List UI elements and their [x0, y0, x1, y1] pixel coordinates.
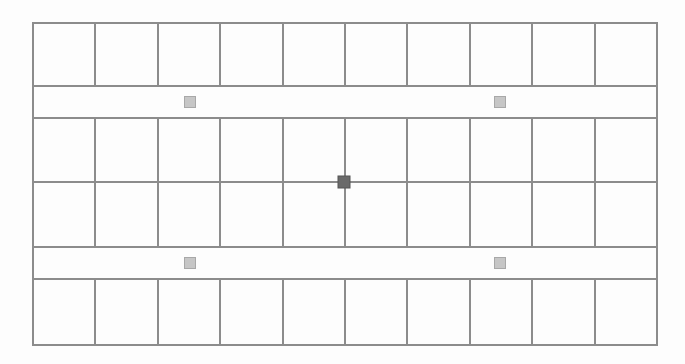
- marker-center: [338, 176, 350, 188]
- marker-bottom-right: [495, 258, 506, 269]
- marker-bottom-left: [185, 258, 196, 269]
- grid-svg: [0, 0, 685, 364]
- marker-top-left: [185, 97, 196, 108]
- marker-top-right: [495, 97, 506, 108]
- grid-diagram: [0, 0, 685, 364]
